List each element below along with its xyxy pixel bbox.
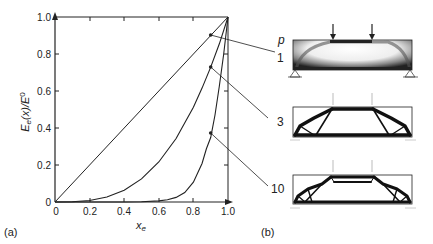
- chart-panel-a: 0 0.2 0.4 0.6 0.8 1.0 0 0.2 0.4 0.6 0.8 …: [4, 12, 275, 238]
- y-tick-labels: 0 0.2 0.4 0.6 0.8 1.0: [37, 12, 51, 208]
- structure-p3: [290, 93, 416, 140]
- structure-p10: [290, 160, 416, 208]
- callout-label-p1: 1: [277, 51, 284, 65]
- panel-a-label: (a): [4, 226, 17, 238]
- x-tick-labels: 0 0.2 0.4 0.6 0.8 1.0: [53, 206, 235, 217]
- svg-text:1.0: 1.0: [37, 12, 51, 23]
- x-axis-label: xe: [135, 219, 147, 233]
- svg-text:0.6: 0.6: [37, 86, 51, 97]
- svg-text:0: 0: [45, 197, 51, 208]
- svg-text:0.8: 0.8: [37, 49, 51, 60]
- svg-text:0: 0: [53, 206, 59, 217]
- load-arrow-icon: [369, 34, 375, 40]
- callout-label-p10: 10: [271, 182, 285, 196]
- svg-text:0.2: 0.2: [37, 160, 51, 171]
- svg-text:0.4: 0.4: [37, 123, 51, 134]
- svg-text:0.8: 0.8: [186, 206, 200, 217]
- support-icon: [405, 70, 415, 77]
- y-axis-arrow-icon: [52, 12, 58, 20]
- p-header: p: [277, 33, 285, 47]
- svg-text:0.4: 0.4: [117, 206, 131, 217]
- x-axis-arrow-icon: [225, 199, 233, 205]
- panel-b-label: (b): [261, 226, 274, 238]
- callout-line-p1: [211, 35, 275, 52]
- structure-p1: [288, 24, 418, 77]
- callout-line-p10: [211, 133, 268, 186]
- y-axis-label: Ee(x)/E0: [18, 92, 33, 132]
- curve-p1: [55, 17, 228, 202]
- load-arrow-icon: [330, 34, 336, 40]
- figure: 0 0.2 0.4 0.6 0.8 1.0 0 0.2 0.4 0.6 0.8 …: [0, 0, 433, 244]
- svg-text:0.6: 0.6: [152, 206, 166, 217]
- support-icon: [290, 70, 300, 77]
- callout-label-p3: 3: [277, 115, 284, 129]
- svg-text:1.0: 1.0: [221, 206, 235, 217]
- chart-panel-b: p 1 3 10 (b): [261, 24, 418, 238]
- callout-line-p3: [211, 67, 268, 118]
- svg-text:0.2: 0.2: [83, 206, 97, 217]
